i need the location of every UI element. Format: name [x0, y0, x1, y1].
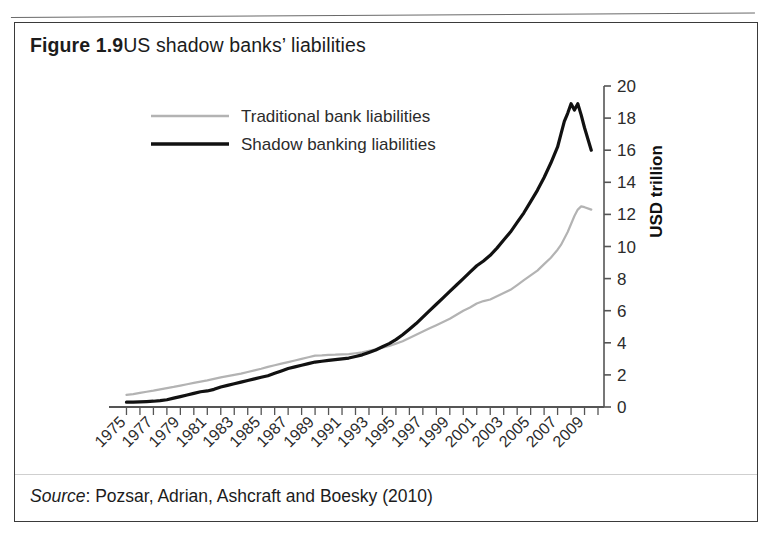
y-tick-label: 14 [617, 173, 636, 192]
source-text: : Pozsar, Adrian, Ashcraft and Boesky (2… [85, 486, 432, 506]
y-tick-label: 0 [617, 398, 626, 417]
chart-legend: Traditional bank liabilitiesShadow banki… [151, 107, 436, 154]
chart-plot-area: 02468101214161820 1975197719791981198319… [0, 0, 774, 542]
x-tick-label: 1997 [388, 413, 425, 450]
legend-label: Shadow banking liabilities [241, 135, 436, 154]
y-tick-label: 12 [617, 205, 636, 224]
source-divider [15, 474, 757, 475]
x-tick-label: 1977 [118, 413, 155, 450]
x-tick-label: 1987 [253, 413, 290, 450]
line-chart-svg: 02468101214161820 1975197719791981198319… [0, 0, 774, 542]
x-tick-label: 2001 [442, 413, 479, 450]
x-tick-label: 2003 [469, 413, 506, 450]
x-tick-label: 1981 [172, 413, 209, 450]
x-tick-label: 1999 [415, 413, 452, 450]
y-tick-label: 18 [617, 109, 636, 128]
x-tick-label: 2005 [496, 413, 533, 450]
x-axis: 1975197719791981198319851987198919911993… [91, 407, 604, 450]
x-tick-label: 1983 [199, 413, 236, 450]
y-axis: 02468101214161820 [604, 77, 636, 417]
legend-label: Traditional bank liabilities [241, 107, 430, 126]
y-tick-label: 20 [617, 77, 636, 96]
y-tick-label: 10 [617, 238, 636, 257]
source-label: Source [30, 486, 85, 506]
x-tick-label: 1991 [307, 413, 344, 450]
y-tick-label: 16 [617, 141, 636, 160]
y-tick-label: 2 [617, 366, 626, 385]
y-tick-label: 6 [617, 302, 626, 321]
x-tick-label: 1985 [226, 413, 263, 450]
x-tick-label: 2007 [523, 413, 560, 450]
series-line-traditional [126, 206, 591, 395]
x-tick-label: 1993 [334, 413, 371, 450]
figure-source: Source: Pozsar, Adrian, Ashcraft and Boe… [30, 486, 433, 507]
figure-root: Figure 1.9US shadow banks’ liabilities 0… [0, 0, 774, 542]
y-tick-label: 4 [617, 334, 626, 353]
y-tick-label: 8 [617, 270, 626, 289]
y-axis-title: USD trillion [647, 145, 666, 238]
x-tick-label: 2009 [549, 413, 586, 450]
x-tick-label: 1995 [361, 413, 398, 450]
x-tick-label: 1989 [280, 413, 317, 450]
x-tick-label: 1975 [91, 413, 128, 450]
y-axis-title-text: USD trillion [647, 145, 666, 238]
x-tick-label: 1979 [145, 413, 182, 450]
